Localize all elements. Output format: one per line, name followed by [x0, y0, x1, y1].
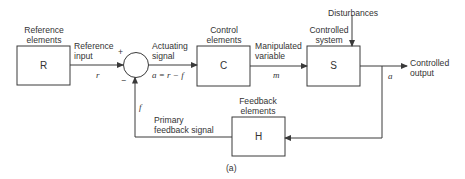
junction-plus-sign: + [118, 47, 123, 57]
reference-input-symbol: r [96, 70, 100, 80]
manipulated-variable-symbol: m [273, 70, 280, 80]
system-block-label: Controlled system [304, 25, 354, 45]
actuating-signal-label: Actuating signal [152, 41, 188, 61]
actuating-signal-equation: a = r − f [152, 70, 184, 80]
feedback-block-letter: H [232, 131, 285, 142]
reference-block-label: Reference elements [14, 25, 74, 45]
junction-minus-sign: − [121, 75, 126, 85]
controlled-output-label: Controlled output [410, 58, 449, 78]
control-block-letter: C [197, 60, 250, 71]
controlled-output-symbol: a [388, 71, 393, 81]
reference-block-letter: R [17, 60, 70, 71]
summing-junction [124, 53, 149, 78]
primary-feedback-symbol: f [139, 102, 142, 112]
control-block-label: Control elements [194, 25, 254, 45]
feedback-branch-line [285, 66, 382, 138]
reference-input-label: Reference input [74, 41, 114, 61]
system-block-letter: S [307, 60, 360, 71]
manipulated-variable-label: Manipulated variable [255, 41, 302, 61]
feedback-block-label: Feedback elements [233, 96, 283, 116]
figure-caption: (a) [226, 163, 237, 173]
disturbances-label: Disturbances [328, 8, 378, 18]
primary-feedback-label: Primary feedback signal [154, 115, 214, 135]
